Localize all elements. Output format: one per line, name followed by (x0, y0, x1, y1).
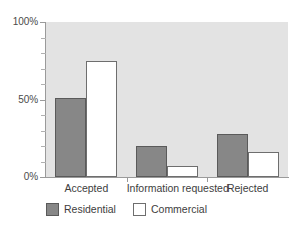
bar-residential-accepted (55, 98, 86, 177)
x-axis-label-accepted: Accepted (46, 182, 127, 195)
bar-residential-rejected (217, 134, 248, 177)
y-axis-tick-label: 50% (0, 95, 38, 105)
y-axis-tick-label: 100% (0, 17, 38, 27)
x-axis-category-labels: AcceptedInformation requestedRejected (46, 182, 288, 198)
legend-label: Residential (64, 203, 116, 216)
x-axis-label-rejected: Rejected (207, 182, 288, 195)
bar-residential-information-requested (136, 146, 167, 177)
x-axis-label-information-requested: Information requested (127, 182, 208, 195)
bar-commercial-information-requested (167, 166, 198, 177)
chart-legend: ResidentialCommercial (46, 203, 207, 216)
legend-swatch-icon (133, 203, 146, 216)
x-axis-line (45, 177, 289, 178)
bar-commercial-rejected (248, 152, 279, 177)
legend-item-residential[interactable]: Residential (46, 203, 116, 216)
bar-commercial-accepted (86, 61, 117, 177)
y-axis-tick-labels: 100%50%0% (0, 0, 38, 234)
bars-container (46, 22, 288, 177)
legend-item-commercial[interactable]: Commercial (133, 203, 207, 216)
legend-swatch-icon (46, 203, 59, 216)
y-axis-tick-label: 0% (0, 172, 38, 182)
legend-label: Commercial (151, 203, 207, 216)
bar-chart: 100%50%0% AcceptedInformation requestedR… (0, 0, 303, 234)
